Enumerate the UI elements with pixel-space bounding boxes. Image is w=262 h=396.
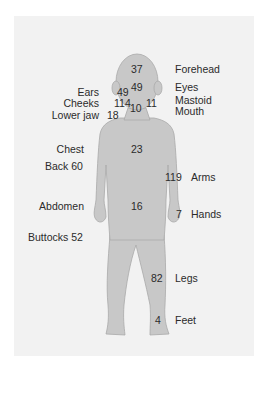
label-buttocks: Buttocks 52 bbox=[28, 231, 83, 243]
label-arms: Arms bbox=[191, 171, 216, 183]
label-lower-jaw: Lower jaw bbox=[52, 109, 99, 121]
value-arms: 119 bbox=[165, 171, 182, 183]
label-cheeks: Cheeks bbox=[63, 97, 99, 109]
value-buttocks: 52 bbox=[71, 231, 83, 243]
label-hands: Hands bbox=[191, 208, 221, 220]
value-back: 60 bbox=[71, 160, 83, 172]
value-eyes: 49 bbox=[131, 81, 143, 93]
label-chest: Chest bbox=[57, 143, 84, 155]
label-eyes: Eyes bbox=[175, 81, 198, 93]
label-mouth: Mouth bbox=[175, 105, 204, 117]
label-forehead: Forehead bbox=[175, 63, 220, 75]
label-abdomen: Abdomen bbox=[39, 200, 84, 212]
value-mastoid: 11 bbox=[146, 97, 157, 109]
value-feet: 4 bbox=[155, 314, 161, 326]
value-mouth: 10 bbox=[130, 102, 142, 114]
value-cheeks: 114 bbox=[114, 97, 131, 109]
value-chest: 23 bbox=[131, 143, 143, 155]
value-lower-jaw: 18 bbox=[107, 109, 119, 121]
value-hands: 7 bbox=[176, 208, 182, 220]
value-forehead: 37 bbox=[131, 63, 143, 75]
label-back: Back 60 bbox=[45, 160, 83, 172]
label-legs: Legs bbox=[175, 272, 198, 284]
value-abdomen: 16 bbox=[131, 200, 143, 212]
value-legs: 82 bbox=[151, 272, 163, 284]
label-feet: Feet bbox=[175, 314, 196, 326]
body-silhouette-icon bbox=[0, 0, 262, 396]
